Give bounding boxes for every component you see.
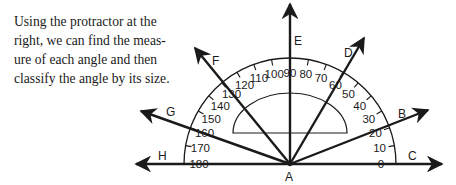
tick-10 [388,146,394,147]
scale-label-170: 170 [191,142,210,154]
scale-label-150: 150 [202,113,221,125]
scale-label-80: 80 [299,68,312,80]
tick-110 [254,64,256,70]
label-F: F [212,54,219,68]
label-E: E [294,34,302,48]
label-C: C [408,149,417,163]
label-G: G [166,105,175,119]
scale-label-50: 50 [342,88,355,100]
label-D: D [344,46,353,60]
tick-30 [377,111,382,114]
tick-100 [272,60,273,66]
vertex-point [288,162,292,166]
scale-label-70: 70 [315,72,328,84]
tick-80 [307,60,308,66]
tick-70 [324,64,326,70]
scale-label-140: 140 [211,100,230,112]
protractor-scale-labels: 0102030405060708090100110120130140150160… [189,67,386,170]
scale-label-40: 40 [353,100,366,112]
tick-50 [354,83,358,88]
protractor-diagram: 0102030405060708090100110120130140150160… [0,0,456,185]
label-B: B [398,107,406,121]
label-H: H [158,149,167,163]
tick-40 [367,96,372,100]
scale-label-10: 10 [373,142,386,154]
scale-label-30: 30 [362,113,375,125]
tick-120 [237,72,240,77]
vertex-label-A: A [285,170,293,184]
